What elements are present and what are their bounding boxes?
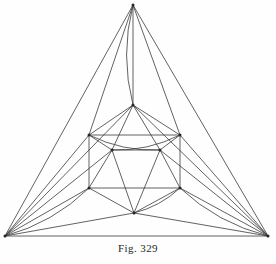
- vertex-in_r: [159, 149, 162, 152]
- edge-bl-sq_tl: [5, 135, 89, 236]
- edge-sq_br-bm: [134, 188, 180, 213]
- vertex-sq_tl: [88, 134, 91, 137]
- edge-in_l-bm: [112, 150, 134, 213]
- straight-edge-group: [5, 5, 268, 236]
- figure-container: Fig. 329: [0, 0, 276, 264]
- vertex-bl: [4, 235, 7, 238]
- arc-edge-group: [5, 5, 268, 236]
- vertex-dot-group: [4, 4, 270, 238]
- edge-br-sq_tr: [180, 135, 268, 236]
- edge-in_l-sq_bl: [89, 150, 112, 188]
- polyhedron-projection-diagram: [0, 0, 276, 240]
- edge-bl-in_l: [5, 150, 112, 236]
- edge-br-in_r: [160, 150, 268, 236]
- arc-apex-tm: [127, 5, 134, 105]
- edge-apex-br: [133, 5, 268, 236]
- edge-tm-sq_tr: [133, 105, 180, 135]
- vertex-bm: [133, 212, 136, 215]
- vertex-br: [267, 235, 270, 238]
- edge-sq_tl-in_l: [89, 135, 112, 150]
- edge-apex-sq_tl: [89, 5, 133, 135]
- vertex-apex: [132, 4, 135, 7]
- vertex-sq_bl: [88, 187, 91, 190]
- vertex-tm: [132, 104, 135, 107]
- arc-sq_tl-in_r: [89, 135, 160, 150]
- edge-apex-sq_tr: [133, 5, 180, 135]
- edge-sq_bl-bm: [89, 188, 134, 213]
- vertex-sq_tr: [179, 134, 182, 137]
- figure-caption: Fig. 329: [0, 242, 276, 254]
- vertex-sq_br: [179, 187, 182, 190]
- edge-in_r-bm: [134, 150, 160, 213]
- edge-in_r-sq_br: [160, 150, 180, 188]
- vertex-in_l: [111, 149, 114, 152]
